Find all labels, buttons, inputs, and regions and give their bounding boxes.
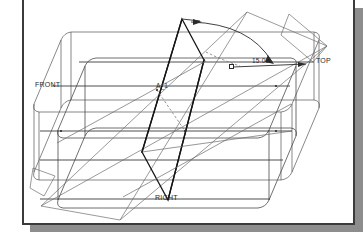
arrowhead-start xyxy=(193,19,202,25)
rotated-datum-rect xyxy=(41,12,327,220)
corner-tab-upper-right xyxy=(281,14,327,62)
tie-line-mid xyxy=(142,131,292,152)
vertex-right-face xyxy=(275,85,277,87)
diagonal-lower xyxy=(123,104,291,197)
dashed-line-angle-leg xyxy=(206,52,240,66)
rotated-datum-diag-b xyxy=(120,12,247,220)
vertex-mid xyxy=(184,130,186,132)
vertex-right-face-2 xyxy=(275,130,277,132)
angle-dimension-leader xyxy=(233,64,306,67)
datum-label-top[interactable]: TOP xyxy=(316,57,331,64)
angle-dimension-value[interactable]: 15.00 xyxy=(252,58,269,65)
datum-label-a1[interactable]: A_1 xyxy=(156,83,168,90)
block-outer-wireframe xyxy=(34,32,320,180)
rotated-datum-outline xyxy=(41,12,327,220)
rotated-datum-corner-tab xyxy=(281,14,327,62)
dashed-line-a1-center xyxy=(157,90,185,131)
rotated-datum-diag-a xyxy=(41,46,327,206)
angle-dimension-arc xyxy=(191,22,272,62)
angle-dimension-graphics[interactable] xyxy=(182,19,306,67)
cad-screenshot: TOP FRONT RIGHT A_1 15.00 xyxy=(0,0,363,244)
datum-label-front[interactable]: FRONT xyxy=(35,81,60,88)
dimension-drag-handle[interactable] xyxy=(229,64,234,69)
drawing-canvas[interactable] xyxy=(0,0,363,244)
datum-plane-a1[interactable] xyxy=(142,19,204,200)
vertex-upper-right xyxy=(203,59,205,61)
datum-label-right[interactable]: RIGHT xyxy=(155,194,178,201)
angle-dimension-arrowheads xyxy=(193,19,306,67)
datum-plane-a1-outline xyxy=(142,19,204,200)
vertex-left-face xyxy=(60,130,62,132)
datum-plane-horizontal-lines xyxy=(40,62,314,199)
vertex-lower-left xyxy=(141,151,143,153)
block-inner-wireframe xyxy=(58,58,297,208)
vertex-marks xyxy=(60,59,277,153)
